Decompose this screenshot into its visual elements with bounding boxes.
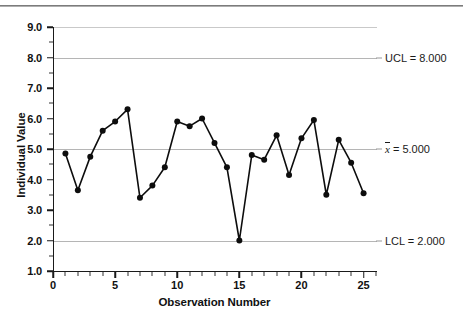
- x-axis-title: Observation Number: [53, 296, 376, 308]
- x-bar-symbol: x: [385, 143, 390, 155]
- ucl-label: UCL = 8.000: [385, 52, 447, 64]
- x-tick-minor: [251, 272, 252, 276]
- lcl-tick: [376, 240, 382, 241]
- center-line-line: [54, 149, 377, 150]
- x-tick-minor: [102, 272, 103, 276]
- x-tick-major: [52, 272, 54, 278]
- x-tick-label: 5: [112, 279, 118, 291]
- x-tick-major: [176, 272, 178, 278]
- y-tick-label: 2.0: [27, 235, 42, 247]
- lcl-line: [54, 241, 377, 242]
- center-line-label: x = 5.000: [385, 143, 430, 155]
- x-tick-minor: [77, 272, 78, 276]
- center-line-value: = 5.000: [390, 143, 430, 155]
- x-tick-minor: [189, 272, 190, 276]
- x-tick-label: 0: [50, 279, 56, 291]
- x-tick-minor: [65, 272, 66, 276]
- gridline: [54, 27, 377, 28]
- y-tick-label: 7.0: [27, 82, 42, 94]
- y-tick-label: 4.0: [27, 174, 42, 186]
- y-axis-title: Individual Value: [15, 70, 27, 240]
- x-tick-label: 20: [295, 279, 307, 291]
- x-tick-minor: [90, 272, 91, 276]
- y-tick-label: 5.0: [27, 143, 42, 155]
- x-tick-minor: [127, 272, 128, 276]
- ucl-line: [54, 58, 377, 59]
- x-tick-minor: [313, 272, 314, 276]
- x-tick-minor: [226, 272, 227, 276]
- plot-area: [53, 27, 377, 272]
- ucl-tick: [376, 57, 382, 58]
- x-tick-major: [363, 272, 365, 278]
- x-tick-minor: [338, 272, 339, 276]
- x-tick-minor: [202, 272, 203, 276]
- y-tick-label: 9.0: [27, 21, 42, 33]
- x-tick-major: [301, 272, 303, 278]
- x-tick-label: 25: [357, 279, 369, 291]
- x-tick-minor: [276, 272, 277, 276]
- x-tick-major: [239, 272, 241, 278]
- x-tick-minor: [164, 272, 165, 276]
- x-tick-minor: [326, 272, 327, 276]
- center-line-tick: [376, 149, 382, 150]
- x-tick-minor: [214, 272, 215, 276]
- x-tick-minor: [351, 272, 352, 276]
- y-tick-label: 6.0: [27, 113, 42, 125]
- x-tick-label: 10: [171, 279, 183, 291]
- x-tick-minor: [152, 272, 153, 276]
- y-tick-label: 1.0: [27, 265, 42, 277]
- lcl-label: LCL = 2.000: [385, 235, 445, 247]
- x-tick-major: [114, 272, 116, 278]
- x-tick-minor: [264, 272, 265, 276]
- y-tick-label: 8.0: [27, 52, 42, 64]
- x-tick-minor: [139, 272, 140, 276]
- x-tick-label: 15: [233, 279, 245, 291]
- x-tick-minor: [289, 272, 290, 276]
- control-chart: 9.08.07.06.05.04.03.02.01.0 Individual V…: [0, 0, 463, 322]
- x-tick-minor: [376, 272, 377, 276]
- y-tick-label: 3.0: [27, 204, 42, 216]
